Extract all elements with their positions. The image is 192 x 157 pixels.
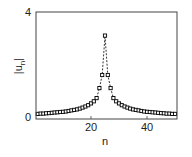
chart: 204004 n |un|	[0, 0, 192, 157]
plot-frame	[36, 12, 177, 119]
x-axis-label: n	[102, 135, 108, 147]
x-tick-label: 40	[141, 121, 153, 133]
data-point-marker	[95, 97, 98, 100]
data-point-marker	[98, 87, 101, 90]
x-tick-label: 20	[85, 121, 97, 133]
data-point-marker	[109, 87, 112, 90]
data-point-marker	[173, 112, 176, 115]
y-axis-label: |un|	[12, 58, 27, 74]
data-point-marker	[101, 73, 104, 76]
y-tick-label: 4	[25, 6, 31, 18]
plot-area	[36, 34, 176, 116]
data-point-marker	[106, 73, 109, 76]
svg-text:|un|: |un|	[12, 58, 27, 74]
data-point-marker	[92, 100, 95, 103]
data-point-marker	[112, 97, 115, 100]
y-tick-label: 0	[25, 111, 31, 123]
data-point-marker	[103, 34, 106, 37]
